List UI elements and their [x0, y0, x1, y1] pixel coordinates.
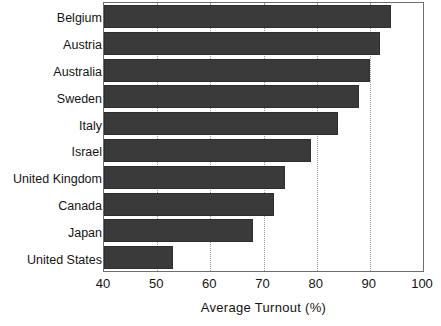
y-axis-tick-label: Sweden: [0, 92, 102, 106]
bar-band: [104, 57, 423, 84]
x-axis-tick-label: 60: [202, 276, 216, 291]
bar: [104, 59, 370, 82]
bar-band: [104, 164, 423, 191]
y-axis-tick-label: Japan: [0, 226, 102, 240]
bar: [104, 112, 338, 135]
x-axis-title: Average Turnout (%): [103, 300, 424, 315]
x-axis-tick-label: 70: [255, 276, 269, 291]
x-axis-tick-label: 40: [96, 276, 110, 291]
bar-band: [104, 30, 423, 57]
y-axis-tick-label: Italy: [0, 119, 102, 133]
y-axis-tick-label: Austria: [0, 38, 102, 52]
y-axis-tick-label: Israel: [0, 145, 102, 159]
bar-band: [104, 191, 423, 218]
plot-area: BelgiumAustriaAustraliaSwedenItalyIsrael…: [103, 2, 424, 272]
bar: [104, 85, 359, 108]
bar: [104, 166, 285, 189]
x-axis-tick-labels: 405060708090100: [103, 276, 424, 294]
y-axis-tick-label: United States: [0, 253, 102, 267]
bar-band: [104, 244, 423, 271]
bar: [104, 219, 253, 242]
y-axis-tick-label: Australia: [0, 65, 102, 79]
bar: [104, 32, 380, 55]
y-axis-tick-labels: BelgiumAustriaAustraliaSwedenItalyIsrael…: [0, 5, 102, 275]
y-axis-tick-label: United Kingdom: [0, 172, 102, 186]
bar-band: [104, 137, 423, 164]
x-axis-tick-label: 80: [308, 276, 322, 291]
bar: [104, 246, 173, 269]
bar-band: [104, 3, 423, 30]
x-axis-tick-label: 100: [411, 276, 433, 291]
bar-chart-figure: BelgiumAustriaAustraliaSwedenItalyIsrael…: [0, 0, 441, 326]
bar: [104, 139, 311, 162]
y-axis-tick-label: Belgium: [0, 11, 102, 25]
bar-band: [104, 217, 423, 244]
bar: [104, 5, 391, 28]
x-axis-tick-label: 90: [362, 276, 376, 291]
bar: [104, 193, 274, 216]
x-axis-tick-label: 50: [149, 276, 163, 291]
bar-band: [104, 83, 423, 110]
y-axis-tick-label: Canada: [0, 199, 102, 213]
bar-band: [104, 110, 423, 137]
